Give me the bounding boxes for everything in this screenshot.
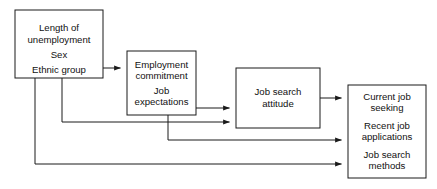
commitment-line-2: commitment — [135, 70, 188, 81]
outcomes-line-6: methods — [369, 160, 406, 171]
demographics-line-3: Sex — [51, 49, 68, 60]
outcomes-line-4: applications — [362, 131, 413, 142]
attitude-line-1: Job search — [255, 86, 302, 97]
outcomes-line-5: Job search — [364, 149, 411, 160]
employment-commitment-box: Employment commitment Job expectations — [127, 51, 196, 115]
demographics-box: Length of unemployment Sex Ethnic group — [15, 10, 103, 78]
outcomes-line-3: Recent job — [364, 120, 410, 131]
commitment-line-1: Employment — [135, 59, 189, 70]
commitment-line-3: Job — [154, 85, 169, 96]
attitude-line-2: attitude — [262, 98, 293, 109]
job-search-attitude-box: Job search attitude — [236, 68, 320, 128]
demographics-line-1: Length of — [39, 22, 79, 33]
demographics-line-4: Ethnic group — [32, 64, 86, 75]
demographics-line-2: unemployment — [28, 34, 91, 45]
flow-diagram: Length of unemployment Sex Ethnic group … — [0, 0, 437, 189]
outcomes-line-1: Current job — [363, 91, 410, 102]
commitment-line-4: expectations — [135, 96, 189, 107]
diagram-canvas: Length of unemployment Sex Ethnic group … — [0, 0, 437, 189]
outcomes-line-2: seeking — [370, 102, 403, 113]
job-search-outcomes-box: Current job seeking Recent job applicati… — [348, 85, 426, 178]
